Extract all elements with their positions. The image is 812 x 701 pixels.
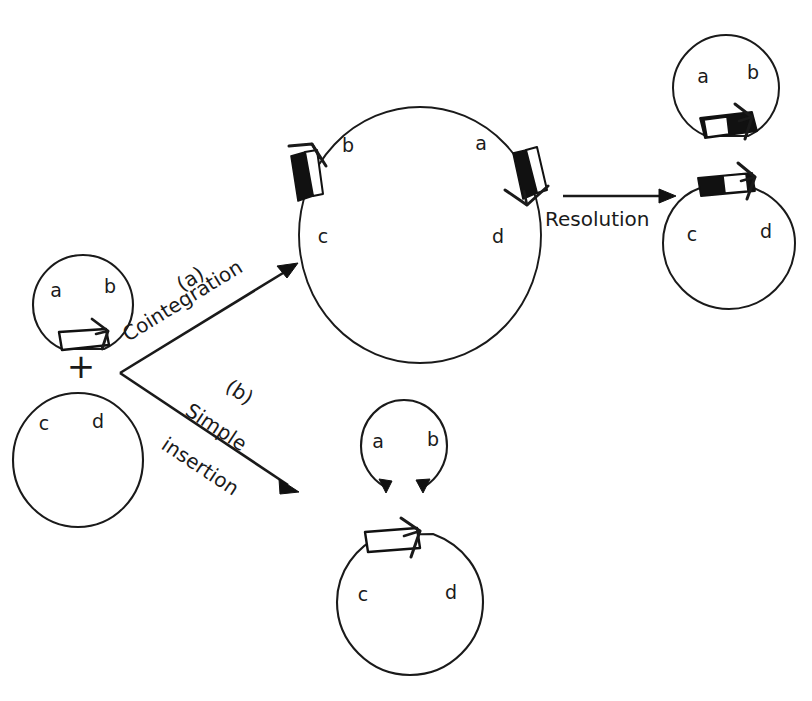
gene-label-b-resolved: b bbox=[747, 61, 759, 83]
plasmid-donor-ab bbox=[33, 255, 133, 350]
gene-label-d-insertion-product: d bbox=[445, 581, 457, 603]
figure-canvas: a b + c d (a) Cointegration (b) Simple i… bbox=[0, 0, 812, 701]
plasmid-cointegrate-circle bbox=[299, 107, 541, 363]
gene-label-b-cointegrate: b bbox=[342, 134, 354, 156]
gene-label-a-insertion: a bbox=[372, 430, 384, 452]
plasmid-resolved-cd bbox=[663, 163, 795, 309]
gene-label-c-recipient: c bbox=[39, 412, 49, 434]
plasmid-insertion-ab-arrowhead-right bbox=[416, 479, 430, 493]
plasmid-recipient-cd-circle bbox=[13, 393, 143, 527]
arrow-resolution bbox=[563, 189, 676, 203]
cointegrate-element-right bbox=[505, 147, 548, 205]
gene-label-a-cointegrate: a bbox=[475, 132, 487, 154]
arrow-simple-insertion-head bbox=[279, 479, 299, 494]
gene-label-c-resolved: c bbox=[687, 223, 697, 245]
cointegrate-element-left bbox=[289, 144, 326, 201]
transposition-diagram: a b + c d (a) Cointegration (b) Simple i… bbox=[0, 0, 812, 701]
gene-label-d-cointegrate: d bbox=[492, 225, 504, 247]
plasmid-resolved-ab bbox=[673, 35, 779, 139]
plasmid-recipient-cd bbox=[13, 393, 143, 527]
gene-label-d-resolved: d bbox=[760, 220, 772, 242]
gene-label-b-insertion: b bbox=[427, 428, 439, 450]
resolution-label: Resolution bbox=[545, 207, 650, 231]
branch-b-tag: (b) bbox=[221, 374, 258, 410]
plasmid-insertion-ab-arc-right bbox=[404, 400, 447, 487]
arrow-resolution-head bbox=[659, 189, 676, 203]
plus-sign: + bbox=[67, 346, 96, 386]
resolved-ab-element-notch bbox=[704, 117, 729, 137]
gene-label-a-resolved: a bbox=[697, 65, 709, 87]
gene-label-b-donor: b bbox=[104, 275, 116, 297]
plasmid-resolved-cd-circle bbox=[663, 185, 795, 309]
gene-label-c-cointegrate: c bbox=[318, 225, 328, 247]
insertion-cd-open-element-box bbox=[365, 528, 420, 552]
plasmid-insertion-ab-arrowhead-left bbox=[379, 479, 392, 493]
resolved-cd-element-notch bbox=[723, 174, 748, 193]
gene-label-d-recipient: d bbox=[92, 410, 104, 432]
gene-label-c-insertion-product: c bbox=[358, 583, 368, 605]
gene-label-a-donor: a bbox=[50, 279, 62, 301]
